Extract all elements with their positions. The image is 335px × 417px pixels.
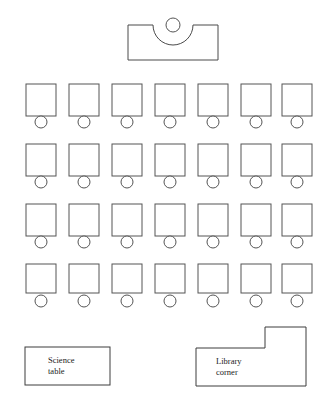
student-chair[interactable] [78, 116, 90, 128]
row-3 [26, 204, 312, 248]
student-chair[interactable] [35, 295, 47, 307]
row-2 [26, 144, 312, 188]
student-desk[interactable] [282, 204, 312, 236]
student-chair[interactable] [291, 295, 303, 307]
science-table-label-line-1: Science [48, 355, 75, 365]
student-chair[interactable] [207, 116, 219, 128]
student-chair[interactable] [35, 116, 47, 128]
student-chair[interactable] [121, 295, 133, 307]
student-chair[interactable] [250, 236, 262, 248]
student-chair[interactable] [121, 116, 133, 128]
student-desk[interactable] [26, 264, 56, 293]
student-desk[interactable] [282, 144, 312, 176]
student-desk[interactable] [241, 144, 271, 176]
student-seat-r1-c1[interactable] [26, 84, 56, 128]
student-seat-r4-c5[interactable] [198, 264, 228, 307]
student-seat-r3-c6[interactable] [241, 204, 271, 248]
student-chair[interactable] [78, 176, 90, 188]
student-seat-r2-c3[interactable] [112, 144, 142, 188]
student-seat-r2-c7[interactable] [282, 144, 312, 188]
student-seat-r4-c7[interactable] [282, 264, 312, 307]
student-desk[interactable] [112, 204, 142, 236]
teacher-desk-group[interactable] [128, 18, 218, 60]
student-seat-r4-c4[interactable] [155, 264, 185, 307]
student-desk[interactable] [198, 144, 228, 176]
student-chair[interactable] [207, 236, 219, 248]
row-1 [26, 84, 312, 128]
student-seat-r3-c1[interactable] [26, 204, 56, 248]
student-chair[interactable] [78, 236, 90, 248]
library-corner-group[interactable]: Library corner [196, 327, 306, 386]
student-chair[interactable] [250, 295, 262, 307]
student-desk[interactable] [69, 204, 99, 236]
student-chair[interactable] [250, 116, 262, 128]
student-desk[interactable] [69, 144, 99, 176]
student-desk[interactable] [112, 264, 142, 293]
student-chair[interactable] [207, 176, 219, 188]
library-corner[interactable] [196, 327, 306, 386]
student-seat-r1-c3[interactable] [112, 84, 142, 128]
student-desk[interactable] [155, 264, 185, 293]
student-chair[interactable] [291, 236, 303, 248]
row-4 [26, 264, 312, 307]
student-desk[interactable] [198, 264, 228, 293]
student-desk[interactable] [69, 264, 99, 293]
student-seat-r1-c5[interactable] [198, 84, 228, 128]
student-desk[interactable] [26, 84, 56, 116]
student-chair[interactable] [164, 116, 176, 128]
student-desk[interactable] [282, 264, 312, 293]
student-seat-r1-c6[interactable] [241, 84, 271, 128]
student-seat-r3-c7[interactable] [282, 204, 312, 248]
student-chair[interactable] [121, 236, 133, 248]
student-desk[interactable] [155, 144, 185, 176]
student-seat-r2-c6[interactable] [241, 144, 271, 188]
student-seat-r4-c3[interactable] [112, 264, 142, 307]
student-chair[interactable] [78, 295, 90, 307]
student-seat-r2-c5[interactable] [198, 144, 228, 188]
student-chair[interactable] [207, 295, 219, 307]
student-desk[interactable] [241, 264, 271, 293]
student-desk[interactable] [155, 204, 185, 236]
student-chair[interactable] [250, 176, 262, 188]
science-table-label-line-2: table [48, 366, 65, 376]
student-seat-r4-c1[interactable] [26, 264, 56, 307]
student-seat-r1-c7[interactable] [282, 84, 312, 128]
student-seat-r1-c4[interactable] [155, 84, 185, 128]
student-desk[interactable] [155, 84, 185, 116]
student-desk[interactable] [241, 84, 271, 116]
student-seat-r2-c4[interactable] [155, 144, 185, 188]
student-desk[interactable] [26, 204, 56, 236]
student-chair[interactable] [121, 176, 133, 188]
student-seat-r2-c2[interactable] [69, 144, 99, 188]
student-seat-r4-c2[interactable] [69, 264, 99, 307]
teacher-chair[interactable] [166, 18, 180, 32]
student-chair[interactable] [164, 295, 176, 307]
classroom-seating-chart: Science table Library corner [0, 0, 335, 417]
science-table-group[interactable]: Science table [25, 347, 110, 385]
student-desk[interactable] [198, 84, 228, 116]
student-desk[interactable] [282, 84, 312, 116]
student-chair[interactable] [164, 176, 176, 188]
student-seat-r3-c3[interactable] [112, 204, 142, 248]
student-desk[interactable] [69, 84, 99, 116]
student-chair[interactable] [291, 176, 303, 188]
student-chair[interactable] [35, 176, 47, 188]
student-desk[interactable] [112, 144, 142, 176]
student-chair[interactable] [291, 116, 303, 128]
student-desk-grid [26, 84, 312, 307]
student-seat-r3-c5[interactable] [198, 204, 228, 248]
student-desk[interactable] [26, 144, 56, 176]
student-seat-r3-c2[interactable] [69, 204, 99, 248]
student-seat-r4-c6[interactable] [241, 264, 271, 307]
student-chair[interactable] [35, 236, 47, 248]
science-table[interactable] [25, 347, 110, 385]
student-desk[interactable] [241, 204, 271, 236]
student-seat-r3-c4[interactable] [155, 204, 185, 248]
student-chair[interactable] [164, 236, 176, 248]
library-corner-label-line-1: Library [216, 356, 242, 366]
student-desk[interactable] [198, 204, 228, 236]
student-seat-r2-c1[interactable] [26, 144, 56, 188]
student-desk[interactable] [112, 84, 142, 116]
library-corner-label-line-2: corner [216, 367, 238, 377]
student-seat-r1-c2[interactable] [69, 84, 99, 128]
